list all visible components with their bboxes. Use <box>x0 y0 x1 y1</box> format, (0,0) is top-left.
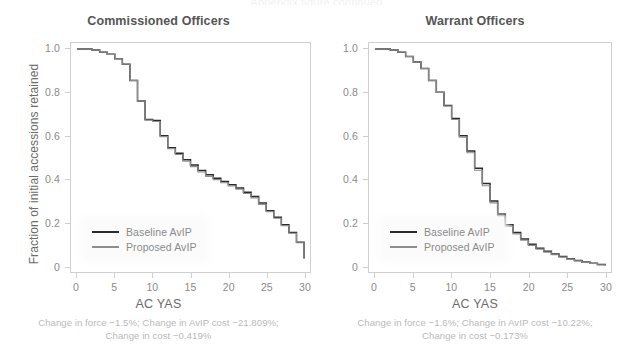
panel-caption-commissioned: Change in force −1.5%; Change in AvIP co… <box>4 317 313 342</box>
legend-item-baseline: Baseline AvIP <box>92 225 197 238</box>
y-tick-label: 0.8 <box>334 86 358 98</box>
y-tick-label: 1.0 <box>36 42 60 54</box>
y-tick-label: 1.0 <box>334 42 358 54</box>
y-tick-mark <box>363 267 368 268</box>
y-axis-label: Fraction of initial accessions retained <box>27 44 41 284</box>
y-tick-label: 0.2 <box>36 217 60 229</box>
legend-label-proposed: Proposed AvIP <box>126 241 197 253</box>
y-tick-mark <box>363 223 368 224</box>
x-tick-mark <box>374 273 375 278</box>
legend-item-baseline: Baseline AvIP <box>390 225 495 238</box>
y-tick-label: 0 <box>36 261 60 273</box>
x-tick-label: 5 <box>400 281 426 293</box>
x-tick-mark <box>529 273 530 278</box>
x-tick-label: 15 <box>178 281 204 293</box>
caption-line-2: Change in cost −0.419% <box>4 330 313 343</box>
y-tick-mark <box>65 48 70 49</box>
y-tick-mark <box>363 179 368 180</box>
plot-area-commissioned: Baseline AvIP Proposed AvIP <box>70 42 311 273</box>
x-tick-label: 30 <box>292 281 318 293</box>
x-tick-mark <box>567 273 568 278</box>
legend-commissioned: Baseline AvIP Proposed AvIP <box>85 220 206 258</box>
x-tick-mark <box>76 273 77 278</box>
y-tick-label: 0.2 <box>334 217 358 229</box>
x-tick-mark <box>114 273 115 278</box>
x-tick-label: 20 <box>516 281 542 293</box>
y-tick-mark <box>65 179 70 180</box>
legend-item-proposed: Proposed AvIP <box>390 240 495 253</box>
y-tick-mark <box>363 136 368 137</box>
x-tick-mark <box>451 273 452 278</box>
legend-item-proposed: Proposed AvIP <box>92 240 197 253</box>
panel-caption-warrant: Change in force −1.6%; Change in AvIP co… <box>321 317 629 342</box>
x-axis-label: AC YAS <box>317 297 633 311</box>
x-tick-mark <box>606 273 607 278</box>
x-tick-label: 10 <box>438 281 464 293</box>
x-tick-label: 0 <box>361 281 387 293</box>
x-tick-mark <box>152 273 153 278</box>
panel-commissioned-officers: Commissioned Officers Fraction of initia… <box>0 0 317 358</box>
y-tick-mark <box>363 48 368 49</box>
y-tick-label: 0.4 <box>334 173 358 185</box>
y-tick-mark <box>65 92 70 93</box>
x-tick-mark <box>229 273 230 278</box>
legend-line-icon-proposed <box>92 246 119 248</box>
caption-line-2: Change in cost −0.173% <box>321 330 629 343</box>
x-tick-label: 25 <box>554 281 580 293</box>
legend-label-baseline: Baseline AvIP <box>126 226 192 238</box>
x-tick-mark <box>490 273 491 278</box>
y-tick-label: 0 <box>334 261 358 273</box>
y-tick-label: 0.8 <box>36 86 60 98</box>
legend-label-baseline: Baseline AvIP <box>424 226 490 238</box>
x-tick-mark <box>305 273 306 278</box>
legend-warrant: Baseline AvIP Proposed AvIP <box>383 220 504 258</box>
y-tick-mark <box>65 267 70 268</box>
y-tick-mark <box>65 223 70 224</box>
legend-line-icon-baseline <box>92 231 119 233</box>
caption-line-1: Change in force −1.6%; Change in AvIP co… <box>321 317 629 330</box>
x-axis-label: AC YAS <box>0 297 317 311</box>
plot-area-warrant: Baseline AvIP Proposed AvIP <box>368 42 612 273</box>
y-tick-mark <box>65 136 70 137</box>
caption-line-1: Change in force −1.5%; Change in AvIP co… <box>4 317 313 330</box>
x-tick-mark <box>267 273 268 278</box>
legend-line-icon-baseline <box>390 231 417 233</box>
y-tick-mark <box>363 92 368 93</box>
legend-line-icon-proposed <box>390 246 417 248</box>
x-tick-label: 5 <box>101 281 127 293</box>
panel-title: Warrant Officers <box>317 14 633 28</box>
x-tick-label: 30 <box>593 281 619 293</box>
x-tick-mark <box>191 273 192 278</box>
y-tick-label: 0.6 <box>36 130 60 142</box>
x-tick-label: 0 <box>63 281 89 293</box>
x-tick-label: 20 <box>216 281 242 293</box>
y-tick-label: 0.4 <box>36 173 60 185</box>
figure-root: Appendix figure continued Commissioned O… <box>0 0 633 358</box>
x-tick-mark <box>413 273 414 278</box>
x-tick-label: 25 <box>254 281 280 293</box>
x-tick-label: 15 <box>477 281 503 293</box>
legend-label-proposed: Proposed AvIP <box>424 241 495 253</box>
panel-warrant-officers: Warrant Officers Baseline AvIP Proposed … <box>317 0 633 358</box>
x-tick-label: 10 <box>139 281 165 293</box>
panel-title: Commissioned Officers <box>0 14 317 28</box>
y-tick-label: 0.6 <box>334 130 358 142</box>
